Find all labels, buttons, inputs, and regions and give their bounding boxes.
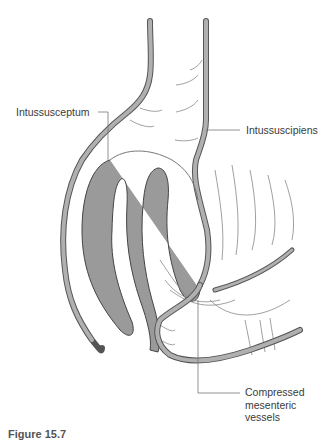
label-compressed-line1: Compressed	[245, 386, 305, 399]
label-intussusceptum: Intussusceptum	[16, 106, 90, 119]
label-compressed-line2: mesenteric	[245, 399, 305, 412]
lower-bowel-wall	[157, 285, 300, 360]
figure-caption: Figure 15.7	[8, 428, 66, 440]
label-intussuscipiens: Intussuscipiens	[246, 124, 318, 137]
label-compressed-vessels: Compressed mesenteric vessels	[245, 386, 305, 424]
intussusceptum-shaded	[82, 160, 200, 352]
label-compressed-line3: vessels	[245, 411, 305, 424]
